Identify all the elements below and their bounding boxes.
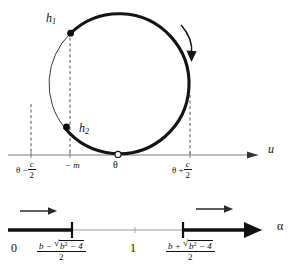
fraction-numerator: b + √ b2 − 4 <box>166 240 215 252</box>
u-axis-arrowhead <box>247 151 258 158</box>
circle-thin-arc <box>49 33 71 128</box>
fraction-denominator: 2 <box>184 170 192 180</box>
numerator-lead: b + <box>168 241 181 251</box>
fraction-denominator: 2 <box>28 170 36 180</box>
radical-icon: √ <box>183 239 188 249</box>
flow-arrow-right-head <box>224 205 233 213</box>
radicand-tail: − 4 <box>70 241 83 251</box>
radicand: b2 − 4 <box>188 240 213 251</box>
figure-canvas <box>0 0 300 277</box>
label-h1-subscript: 1 <box>52 17 56 26</box>
radicand-exponent: 2 <box>194 241 197 247</box>
numerator-lead: b − <box>39 241 52 251</box>
fraction-denominator: 2 <box>37 252 86 262</box>
fraction-root-minus: b − √ b2 − 4 2 <box>37 240 86 263</box>
tick-label-theta-plus-c-over-2: θ +c2 <box>172 160 192 181</box>
point-theta-open-marker <box>115 151 121 157</box>
flow-arrow-left-head <box>48 207 57 215</box>
radical-sign-group: √ b2 − 4 <box>54 240 84 251</box>
tick-label-one: 1 <box>130 242 136 254</box>
fraction-denominator: 2 <box>166 252 215 262</box>
label-h1: h1 <box>46 12 56 26</box>
radical-icon: √ <box>54 239 59 249</box>
tick-label-zero: 0 <box>11 242 17 254</box>
fraction-numerator: b − √ b2 − 4 <box>37 240 86 252</box>
fraction-root-plus: b + √ b2 − 4 2 <box>166 240 215 263</box>
math-figure: h1 h2 u α θ −c2 − m θ θ +c2 0 1 b − √ b2 <box>0 0 300 277</box>
tick-label-theta: θ <box>113 160 118 170</box>
fraction-c-over-2: c2 <box>28 160 36 181</box>
point-h2-marker <box>63 124 70 131</box>
radicand: b2 − 4 <box>59 240 84 251</box>
label-h2: h2 <box>79 122 89 136</box>
tick-label-root-minus: b − √ b2 − 4 2 <box>37 240 86 263</box>
fraction-numerator: c <box>184 160 192 170</box>
tick-label-lead: θ + <box>172 166 184 175</box>
rotation-arrow-curve <box>181 25 192 54</box>
point-h1-marker <box>67 30 74 37</box>
radicand-tail: − 4 <box>199 241 212 251</box>
alpha-axis-arrowhead <box>244 222 262 238</box>
fraction-numerator: c <box>28 160 36 170</box>
tick-label-lead: θ − <box>16 166 28 175</box>
label-h2-subscript: 2 <box>85 127 89 136</box>
tick-label-root-plus: b + √ b2 − 4 2 <box>166 240 215 263</box>
label-alpha-axis: α <box>277 220 283 232</box>
fraction-c-over-2: c2 <box>184 160 192 181</box>
tick-label-theta-minus-c-over-2: θ −c2 <box>16 160 36 181</box>
radical-sign-group: √ b2 − 4 <box>183 240 213 251</box>
label-u-axis: u <box>268 143 274 155</box>
rotation-arrowhead <box>186 51 196 63</box>
tick-label-minus-m: − m <box>65 161 80 170</box>
radicand-exponent: 2 <box>65 241 68 247</box>
